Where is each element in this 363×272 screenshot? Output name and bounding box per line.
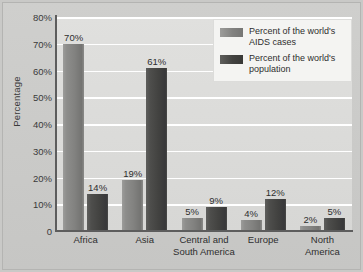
legend-label-aids-cases: Percent of the world's AIDS cases <box>249 26 335 47</box>
bar-value-label: 9% <box>193 195 239 206</box>
y-tick-label: 40% <box>2 119 52 130</box>
legend-label-population: Percent of the world's population <box>249 53 335 74</box>
y-tick-label: 30% <box>2 145 52 156</box>
gridline <box>56 97 352 99</box>
legend-swatch-aids-cases <box>220 28 243 37</box>
gridline <box>56 124 352 126</box>
bar <box>182 218 203 231</box>
y-axis-tick-labels: 80%70%60%50%40%30%20%10%0 <box>0 0 52 272</box>
gridline <box>56 151 352 153</box>
bar-value-label: 70% <box>51 32 97 43</box>
y-tick-label: 10% <box>2 199 52 210</box>
y-axis-line <box>55 15 57 232</box>
gridline <box>56 178 352 180</box>
bar-value-label: 14% <box>75 182 121 193</box>
bar <box>206 207 227 231</box>
chart-legend: Percent of the world's AIDS cases Percen… <box>213 19 352 82</box>
x-axis-line <box>55 230 353 232</box>
bar <box>146 68 167 231</box>
y-tick-label: 60% <box>2 65 52 76</box>
y-tick-label: 50% <box>2 92 52 103</box>
bar <box>87 194 108 231</box>
legend-swatch-population <box>220 55 243 64</box>
y-tick-label: 0 <box>2 226 52 237</box>
bar <box>265 199 286 231</box>
bar-value-label: 61% <box>134 56 180 67</box>
bar-value-label: 12% <box>252 187 298 198</box>
bar <box>324 218 345 231</box>
bar <box>122 180 143 231</box>
legend-item-population: Percent of the world's population <box>220 53 346 74</box>
bar <box>63 44 84 231</box>
y-tick-label: 80% <box>2 12 52 23</box>
y-tick-label: 70% <box>2 38 52 49</box>
chart-figure: Percentage 80%70%60%50%40%30%20%10%0 70%… <box>0 0 363 272</box>
legend-item-aids-cases: Percent of the world's AIDS cases <box>220 26 346 47</box>
bar-value-label: 5% <box>311 206 357 217</box>
y-tick-label: 20% <box>2 172 52 183</box>
x-category-label: NorthAmerica <box>283 234 362 257</box>
